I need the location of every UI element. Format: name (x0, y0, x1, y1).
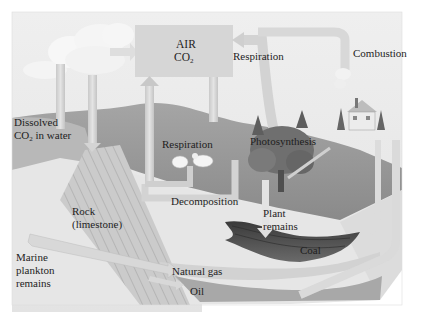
plant-remains-label-1: Plant (263, 207, 286, 219)
plant-remains-label-2: remains (263, 220, 298, 232)
co2-air-label: CO2 (174, 51, 193, 63)
marine-plankton-label-2: plankton (16, 264, 55, 276)
oil-label: Oil (190, 285, 204, 297)
dissolved-down-arrow-2 (88, 75, 97, 145)
dissolved-co2-label-line2: CO2 in water (14, 129, 71, 141)
rock-label-2: (limestone) (72, 218, 122, 230)
decomposition-label: Decomposition (171, 195, 238, 207)
air-label: AIR (176, 38, 196, 50)
photosynthesis-down-arrow (209, 77, 218, 122)
respiration-animals-label: Respiration (162, 138, 213, 150)
coal-label: Coal (300, 244, 321, 256)
carbon-cycle-diagram: AIR CO2 Respiration Combustion Dissolved… (0, 0, 434, 321)
combustion-label: Combustion (353, 47, 407, 59)
dissolved-co2-label-line1: Dissolved (14, 116, 58, 128)
respiration-up-arrow-shaft (145, 84, 154, 184)
marine-plankton-label-1: Marine (16, 251, 48, 263)
respiration-top-label: Respiration (233, 50, 284, 62)
marine-plankton-label-3: remains (16, 277, 51, 289)
rock-label-1: Rock (72, 205, 95, 217)
photosynthesis-label: Photosynthesis (250, 135, 316, 147)
natural-gas-label: Natural gas (172, 265, 222, 277)
